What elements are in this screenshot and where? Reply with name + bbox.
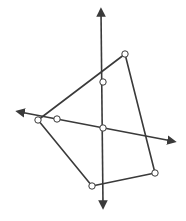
vertical-axis-line — [101, 12, 103, 205]
vertical-axis-point — [100, 79, 106, 85]
diagram-canvas — [0, 0, 186, 221]
bottom-right-vertex — [152, 170, 158, 176]
axes — [20, 12, 172, 205]
bottom-vertex — [89, 183, 95, 189]
intersection-point — [100, 125, 106, 131]
left-vertex — [35, 117, 41, 123]
slanted-axis-point — [54, 116, 60, 122]
points — [35, 51, 158, 189]
top-right-vertex — [122, 51, 128, 57]
